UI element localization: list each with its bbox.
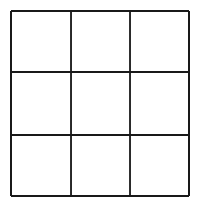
grid-cells-group bbox=[11, 11, 189, 196]
grid-cell bbox=[71, 72, 130, 135]
grid-cell bbox=[71, 135, 130, 196]
grid-cell bbox=[130, 72, 189, 135]
grid-cell bbox=[71, 11, 130, 72]
grid-cell bbox=[11, 72, 71, 135]
grid-cell bbox=[11, 135, 71, 196]
three-by-three-grid-drawing bbox=[0, 0, 201, 206]
grid-cell bbox=[130, 11, 189, 72]
grid-cell bbox=[130, 135, 189, 196]
figure-root bbox=[0, 0, 201, 206]
grid-cell bbox=[11, 11, 71, 72]
